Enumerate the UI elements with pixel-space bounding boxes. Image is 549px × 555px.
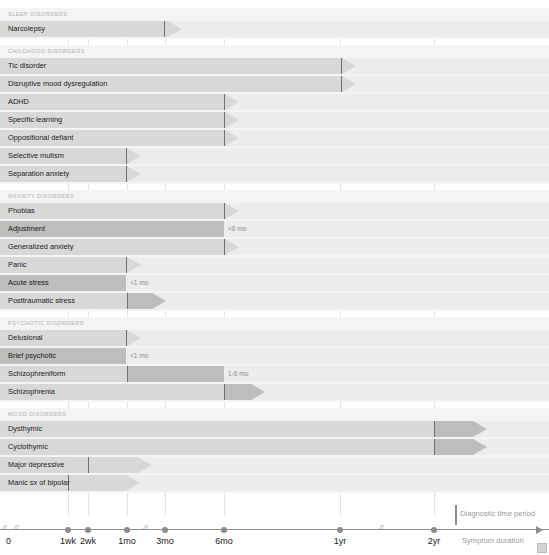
arrow-head-icon [127, 330, 141, 346]
threshold-marker [224, 384, 225, 400]
arrow-head-icon [473, 439, 487, 455]
diagnostic-period-bar [224, 384, 251, 400]
row-label: Separation anxiety [8, 166, 69, 182]
chart-row: ADHD [0, 94, 549, 110]
symptom-duration-chart: SLEEP DISORDERSNarcolepsyCHILDHOOD DISOR… [0, 0, 549, 555]
axis-tick-dot [337, 527, 343, 533]
row-label: Phobias [8, 203, 35, 219]
threshold-marker [341, 58, 342, 74]
threshold-marker [126, 257, 127, 273]
chart-row: Brief psychotic<1 mo [0, 348, 549, 364]
axis-tick-dot [221, 527, 227, 533]
row-label: Tic disorder [8, 58, 46, 74]
chart-row: Tic disorder [0, 58, 549, 74]
duration-label: <6 mo [228, 221, 247, 237]
threshold-marker [224, 130, 225, 146]
threshold-marker [88, 457, 89, 473]
threshold-marker [224, 94, 225, 110]
axis-break-icon: // [2, 523, 6, 532]
arrow-head-icon [225, 112, 239, 128]
threshold-marker [126, 330, 127, 346]
diagnostic-period-bar [435, 421, 473, 437]
arrow-head-icon [473, 421, 487, 437]
legend-label: Diagnostic time period [460, 509, 535, 518]
row-label: Delusional [8, 330, 43, 346]
row-label: ADHD [8, 94, 29, 110]
chart-row: Oppositional defiant [0, 130, 549, 146]
duration-bar [0, 58, 342, 74]
threshold-marker [127, 366, 128, 382]
arrow-head-icon [225, 94, 239, 110]
axis-tick-label: 2yr [428, 536, 441, 546]
chart-row: Adjustment<6 mo [0, 221, 549, 237]
row-label: Narcolepsy [8, 21, 45, 37]
axis-break-icon: // [14, 523, 18, 532]
axis-tick-label: 1wk [60, 536, 76, 546]
arrow-head-icon [225, 239, 239, 255]
chart-row: Generalized anxiety [0, 239, 549, 255]
row-label: Dysthymic [8, 421, 42, 437]
arrow-head-icon [127, 148, 141, 164]
axis-tick-label: 1mo [118, 536, 136, 546]
arrow-head-icon [168, 21, 182, 37]
duration-bar [0, 94, 225, 110]
row-label: Schizophrenia [8, 384, 55, 400]
row-label: Disruptive mood dysregulation [8, 76, 107, 92]
threshold-marker [126, 148, 127, 164]
threshold-marker [434, 439, 435, 455]
axis-tick-dot [162, 527, 168, 533]
x-axis-label: Symptom duration [462, 536, 524, 545]
duration-bar [0, 439, 473, 455]
axis-tick-dot [124, 527, 130, 533]
arrow-head-icon [126, 475, 140, 491]
duration-label: 1-6 mo [228, 366, 249, 382]
duration-label: <1 mo [130, 348, 149, 364]
axis-tick-label: 1yr [334, 536, 347, 546]
row-label: Oppositional defiant [8, 130, 73, 146]
diagnostic-period-bar [128, 293, 152, 309]
axis-break-icon: // [143, 523, 147, 532]
section-title: PSYCHOTIC DISORDERS [8, 320, 84, 326]
legend-marker-icon [455, 505, 457, 525]
chart-row: Posttraumatic stress [0, 293, 549, 309]
threshold-marker [434, 421, 435, 437]
chart-row: Dysthymic [0, 421, 549, 437]
chart-row: Schizophreniform1-6 mo [0, 366, 549, 382]
axis-tick-label: 0 [6, 536, 11, 546]
row-label: Generalized anxiety [8, 239, 73, 255]
section-title: SLEEP DISORDERS [8, 11, 68, 17]
arrow-head-icon [225, 130, 239, 146]
axis-tick-label: 2wk [80, 536, 96, 546]
chart-row: Acute stress<1 mo [0, 275, 549, 291]
chart-row: Phobias [0, 203, 549, 219]
arrow-head-icon [342, 58, 356, 74]
chart-row: Disruptive mood dysregulation [0, 76, 549, 92]
chart-plot-area: SLEEP DISORDERSNarcolepsyCHILDHOOD DISOR… [0, 0, 549, 516]
row-label: Adjustment [8, 221, 45, 237]
row-label: Major depressive [8, 457, 64, 473]
axis-tick-dot [65, 527, 71, 533]
arrow-head-icon [342, 76, 356, 92]
chart-row: Major depressive [0, 457, 549, 473]
chart-row: Selective mutism [0, 148, 549, 164]
section-title: CHILDHOOD DISORDERS [8, 48, 85, 54]
arrow-head-icon [225, 203, 239, 219]
diagnostic-period-bar [127, 366, 224, 382]
threshold-marker [164, 21, 165, 37]
section-title: MOOD DISORDERS [8, 411, 67, 417]
chart-row: Schizophrenia [0, 384, 549, 400]
threshold-marker [224, 112, 225, 128]
chart-row: Manic sx of bipolar [0, 475, 549, 491]
threshold-marker [126, 166, 127, 182]
threshold-marker [224, 239, 225, 255]
x-axis-arrow-icon [536, 526, 543, 534]
row-label: Panic [8, 257, 27, 273]
arrow-head-icon [127, 166, 141, 182]
chart-row: Narcolepsy [0, 21, 549, 37]
chart-row: Panic [0, 257, 549, 273]
row-label: Schizophreniform [8, 366, 66, 382]
chart-row: Delusional [0, 330, 549, 346]
threshold-marker [127, 293, 128, 309]
axis-tick-label: 6mo [215, 536, 233, 546]
chart-row: Specific learning [0, 112, 549, 128]
